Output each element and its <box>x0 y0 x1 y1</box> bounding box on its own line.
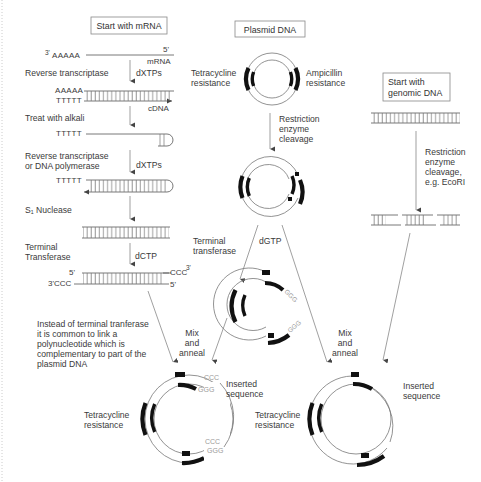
after-alkali-seq: TTTTT <box>56 129 82 138</box>
plasmid-dgtp: dGTP <box>259 236 282 246</box>
tet-gene-inner <box>243 295 245 316</box>
genomic-dna <box>371 113 460 123</box>
step3-label-1: Reverse transcriptase <box>25 151 109 161</box>
genomic-cleavage-label-2: enzyme <box>425 157 455 167</box>
mrna-label: mRNA <box>147 57 171 66</box>
result-right-insert-2: sequence <box>403 391 440 401</box>
plasmid-cleavage-label-2: enzyme <box>279 124 309 134</box>
genomic-cleavage-label-4: e.g. EcoRI <box>425 177 465 187</box>
tailed-5prime-right: 5' <box>170 280 176 289</box>
insert-ccc-bottom: CCC <box>205 438 220 445</box>
arrow-terminal-transferase <box>240 225 258 279</box>
step3-reagent: dXTPs <box>136 160 162 170</box>
mix-right-3: anneal <box>332 348 358 358</box>
hairpin-seq: TTTTT <box>56 176 82 185</box>
plasmid-tt-label-1: Terminal <box>193 236 226 246</box>
plasmid-tet-label-2: resistance <box>191 78 230 88</box>
insert-ggg-top: GGG <box>198 386 214 393</box>
box-genomic-label-1: Start with <box>388 77 425 87</box>
tet-gene-inner <box>252 72 253 86</box>
amp-gene-inner <box>290 72 291 86</box>
tailed-5prime-left: 5' <box>69 268 75 277</box>
arrow-genomic-to-right-mix <box>383 233 410 360</box>
tet-gene-outer <box>309 403 312 435</box>
tet-gene-outer <box>232 290 236 322</box>
box-start-genomic: Start with genomic DNA <box>383 73 450 101</box>
plasmid-amp-label-2: resistance <box>306 78 345 88</box>
result-left-insert-1: Inserted <box>226 379 257 389</box>
result-right-tet-2: resistance <box>255 420 294 430</box>
recombinant-plasmid-right <box>309 372 393 465</box>
step4-label: S₁ Nuclease <box>25 205 72 215</box>
tailed-3prime-right: 3' <box>186 264 191 271</box>
step3-label-2: or DNA polymerase <box>25 161 100 171</box>
step5-label-2: Transferase <box>25 252 71 262</box>
insert-ccc-top: CCC <box>204 374 219 381</box>
genomic-fragments <box>371 215 460 225</box>
plasmid-amp-label-1: Ampicillin <box>306 68 343 78</box>
result-right-tet-1: Tetracycline <box>255 410 301 420</box>
tailed-ccc-right: CCC <box>170 268 188 277</box>
double-strand-hairpin: TTTTT <box>56 176 173 192</box>
plasmid-ggg-tailed: GGG GGG <box>214 268 303 343</box>
ggg-tail-bottom: GGG <box>286 319 302 334</box>
insert-ggg-bottom: GGG <box>207 447 223 454</box>
mrna-3prime: 3' <box>45 49 50 56</box>
box-start-mrna-label: Start with mRNA <box>96 21 161 31</box>
cloning-diagram: Start with mRNA Plasmid DNA Start with g… <box>0 0 481 482</box>
result-left-tet-1: Tetracycline <box>84 410 130 420</box>
genomic-cleavage-label-3: cleavage, <box>425 167 462 177</box>
mix-left-2: and <box>185 338 200 348</box>
note-line-3: polynucleotide which is <box>37 339 125 349</box>
cdna-label: cDNA <box>148 104 170 113</box>
step1-reagent: dXTPs <box>136 68 162 78</box>
tet-gene-outer <box>240 176 242 198</box>
tet-gene-outer <box>246 68 248 90</box>
box-start-mrna: Start with mRNA <box>91 17 167 34</box>
amp-gene-outer <box>300 180 303 204</box>
note-line-4: complementary to part of the <box>37 349 147 359</box>
note-line-5: plasmid DNA <box>37 359 87 369</box>
box-plasmid-label: Plasmid DNA <box>244 25 296 35</box>
amp-gene-outer <box>296 68 298 90</box>
note-text: Instead of terminal tranferase it is com… <box>37 319 149 369</box>
note-line-2: it is common to link a <box>37 329 117 339</box>
hybrid-bottom-seq: TTTTT <box>56 96 82 105</box>
tailed-3prime-ccc-left: 3'CCC <box>48 279 72 288</box>
ggg-tail-top: GGG <box>283 288 299 304</box>
plasmid-cleaved <box>240 157 302 217</box>
plasmid-cleavage-label-1: Restriction <box>279 114 320 124</box>
step5-reagent: dCTP <box>135 251 157 261</box>
result-right-insert-1: Inserted <box>403 381 434 391</box>
mix-left-3: anneal <box>179 348 205 358</box>
ccc-tailed-double-strand: 5' 3'CCC CCC 3' 5' <box>48 264 191 289</box>
plasmid-intact <box>246 53 298 105</box>
step1-label: Reverse transcriptase <box>25 68 109 78</box>
genomic-cleavage-label-1: Restriction <box>425 147 466 157</box>
mrna-5prime: 5' <box>163 45 169 54</box>
box-plasmid-dna: Plasmid DNA <box>235 21 305 37</box>
plasmid-tt-label-2: transferase <box>193 246 236 256</box>
result-left-insert-2: sequence <box>226 389 263 399</box>
hybrid-top-seq: AAAAA <box>55 86 84 95</box>
amp-gene-inner <box>292 176 294 194</box>
mrna-strand: 3' AAAAA 5' mRNA <box>45 45 174 66</box>
mrna-cdna-hybrid: AAAAA TTTTT cDNA <box>55 86 174 113</box>
blunt-double-strand <box>82 227 170 238</box>
step2-label: Treat with alkali <box>25 113 84 123</box>
arrow-to-left-mix <box>148 291 173 362</box>
tet-gene-inner <box>247 178 249 196</box>
step5-label-1: Terminal <box>25 242 58 252</box>
cdna-hairpin-strand: TTTTT <box>56 129 173 146</box>
recombinant-plasmid-left: CCC GGG CCC GGG <box>142 372 233 464</box>
box-genomic-label-2: genomic DNA <box>388 88 442 98</box>
mrna-polya: AAAAA <box>52 51 81 60</box>
mix-right-2: and <box>338 338 353 348</box>
mix-anneal-right: Mix and anneal <box>332 328 358 358</box>
note-line-1: Instead of terminal tranferase <box>37 319 149 329</box>
plasmid-cleavage-label-3: cleavage <box>279 134 314 144</box>
mix-anneal-left: Mix and anneal <box>179 328 205 358</box>
plasmid-tet-label-1: Tetracycline <box>191 68 237 78</box>
mix-left-1: Mix <box>185 328 199 338</box>
result-left-tet-2: resistance <box>84 420 123 430</box>
